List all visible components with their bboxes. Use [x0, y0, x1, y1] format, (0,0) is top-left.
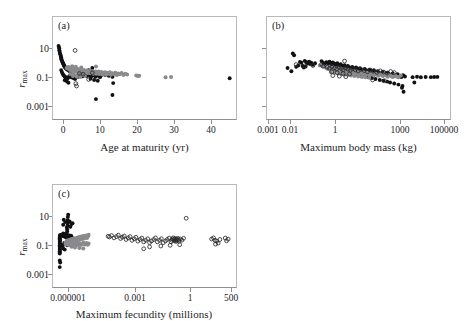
- panel-a: (a) rmax 10 0.1 0.001 0 10 20 30 40 Age …: [0, 0, 240, 160]
- panel-b: (b) 0.001 0.01 1 1000 100000 Maximum bod…: [240, 0, 467, 160]
- panel-a-data-points: [0, 0, 240, 160]
- panel-c-data-points: [0, 160, 250, 321]
- panel-c: (c) rmax 10 0.1 0.001 0.000001 0.001 1 5…: [0, 160, 250, 321]
- panel-b-data-points: [240, 0, 467, 160]
- scientific-figure: (a) rmax 10 0.1 0.001 0 10 20 30 40 Age …: [0, 0, 467, 321]
